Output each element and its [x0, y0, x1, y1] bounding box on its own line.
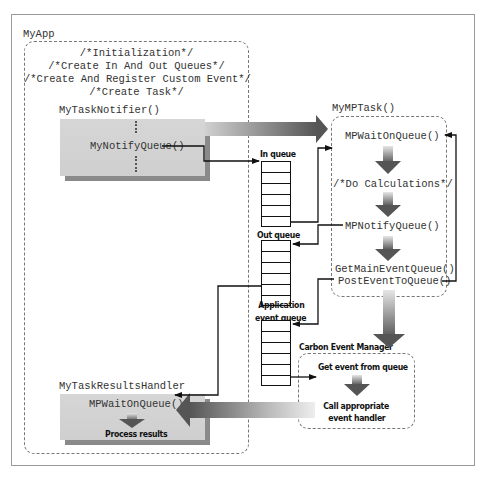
task-to-out-queue-connector — [293, 225, 343, 244]
task-loop-connector — [442, 135, 456, 281]
connector-layer — [0, 0, 488, 484]
dispatch-event-arrow — [176, 393, 315, 427]
notify-to-in-queue-connector — [162, 146, 259, 161]
flow-arrow-icon — [119, 413, 145, 428]
flow-arrow-icon — [375, 236, 401, 261]
in-queue-to-task-connector — [291, 148, 332, 222]
flow-arrow-icon — [375, 192, 401, 217]
flow-arrow-icon — [344, 375, 370, 396]
flow-arrow-icon — [375, 146, 401, 174]
create-task-arrow — [205, 115, 328, 143]
post-event-flow-arrow — [373, 290, 405, 348]
post-event-to-app-queue-connector — [293, 279, 334, 324]
out-queue-to-results-connector — [175, 286, 261, 395]
